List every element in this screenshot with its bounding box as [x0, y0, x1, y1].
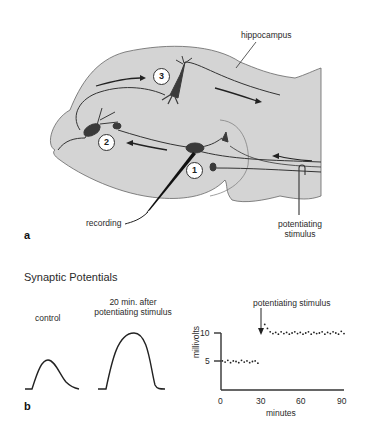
data-point	[297, 333, 299, 335]
x-tick-90: 90	[337, 396, 346, 406]
control-waveform	[25, 360, 79, 389]
data-point	[327, 332, 329, 334]
x-tick-0: 0	[218, 396, 223, 406]
x-tick-30: 30	[256, 396, 265, 406]
data-point	[340, 330, 342, 332]
data-point	[283, 333, 285, 335]
after-label-line2: potentiating stimulus	[90, 307, 176, 317]
data-point	[275, 332, 277, 334]
data-point	[257, 362, 259, 364]
data-point	[313, 332, 315, 334]
ltp-scatter-points	[221, 324, 344, 365]
neuron-3-marker: 3	[153, 68, 170, 85]
data-point	[224, 361, 226, 363]
after-stimulus-label: 20 min. after potentiating stimulus	[90, 297, 176, 317]
control-label: control	[35, 313, 61, 323]
x-tick-60: 60	[296, 396, 305, 406]
data-point	[252, 361, 254, 363]
stimulus-label-line1: potentiating	[274, 219, 326, 229]
data-point	[269, 331, 271, 333]
panel-a-label: a	[24, 229, 30, 241]
data-point	[232, 360, 234, 362]
data-point	[310, 333, 312, 335]
data-point	[335, 332, 337, 334]
data-point	[308, 331, 310, 333]
data-point	[321, 331, 323, 333]
data-point	[221, 360, 223, 362]
data-point	[241, 359, 243, 361]
recording-label: recording	[86, 218, 121, 228]
data-point	[238, 362, 240, 364]
data-point	[338, 333, 340, 335]
data-point	[243, 361, 245, 363]
neuron-1-marker: 1	[186, 162, 203, 179]
data-point	[278, 333, 280, 335]
data-point	[288, 333, 290, 335]
data-point	[249, 362, 251, 364]
data-point	[286, 332, 288, 334]
data-point	[324, 333, 326, 335]
data-point	[272, 333, 274, 335]
data-point	[299, 332, 301, 334]
synaptic-potentials-title: Synaptic Potentials	[24, 271, 118, 283]
data-point	[230, 362, 232, 364]
data-point	[332, 331, 334, 333]
stimulus-label-line2: stimulus	[274, 229, 326, 239]
y-tick-5: 5	[205, 356, 210, 366]
neuron-2-marker: 2	[98, 134, 115, 151]
data-point	[254, 360, 256, 362]
data-point	[316, 333, 318, 335]
hippocampus-diagram	[0, 0, 369, 436]
chart-annotation: potentiating stimulus	[253, 298, 331, 308]
x-axis-label: minutes	[266, 408, 296, 418]
data-point	[235, 361, 237, 363]
data-point	[305, 332, 307, 334]
y-tick-10: 10	[200, 328, 209, 338]
data-point	[319, 332, 321, 334]
potentiated-waveform	[98, 333, 165, 389]
data-point	[302, 333, 304, 335]
data-point	[343, 333, 345, 335]
data-point	[267, 328, 269, 330]
panel-b-label: b	[24, 400, 31, 412]
data-point	[280, 331, 282, 333]
data-point	[227, 359, 229, 361]
data-point	[264, 324, 266, 326]
hippocampus-label: hippocampus	[241, 30, 292, 40]
after-label-line1: 20 min. after	[90, 297, 176, 307]
data-point	[294, 331, 296, 333]
data-point	[291, 332, 293, 334]
stimulus-label: potentiating stimulus	[274, 219, 326, 239]
hippocampus-tissue	[50, 46, 321, 201]
data-point	[329, 333, 331, 335]
data-point	[246, 360, 248, 362]
